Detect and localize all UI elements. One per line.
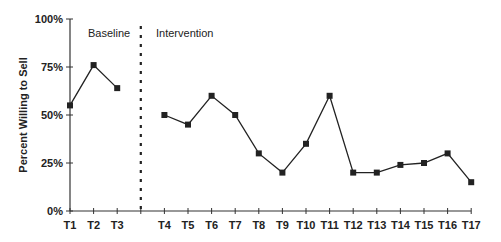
x-tick-label: T14 <box>391 219 411 231</box>
data-series <box>67 62 474 185</box>
line-chart: 0%25%50%75%100% T1T2T3T4T5T6T7T8T9T10T11… <box>0 0 501 242</box>
x-tick-label: T9 <box>276 219 289 231</box>
x-tick-label: T2 <box>87 219 100 231</box>
x-tick-label: T16 <box>438 219 457 231</box>
square-marker <box>279 170 285 176</box>
series-line <box>164 96 471 182</box>
square-marker <box>209 93 215 99</box>
square-marker <box>67 102 73 108</box>
x-tick-label: T15 <box>415 219 434 231</box>
x-tick-label: T11 <box>320 219 338 231</box>
square-marker <box>114 85 120 91</box>
axes <box>70 19 471 211</box>
square-marker <box>256 150 262 156</box>
x-tick-label: T17 <box>462 219 481 231</box>
baseline-phase-label: Baseline <box>88 27 130 39</box>
y-tick-label: 50% <box>41 109 63 121</box>
y-tick-label: 0% <box>47 205 63 217</box>
x-tick-label: T3 <box>111 219 124 231</box>
square-marker <box>350 170 356 176</box>
square-marker <box>397 162 403 168</box>
x-tick-label: T13 <box>367 219 386 231</box>
square-marker <box>445 150 451 156</box>
x-tick-label: T6 <box>205 219 218 231</box>
x-tick-label: T8 <box>252 219 265 231</box>
square-marker <box>161 112 167 118</box>
x-tick-label: T10 <box>297 219 316 231</box>
x-tick-label: T7 <box>229 219 242 231</box>
square-marker <box>374 170 380 176</box>
square-marker <box>421 160 427 166</box>
y-axis-title: Percent Willing to Sell <box>17 57 29 172</box>
x-tick-label: T12 <box>344 219 363 231</box>
x-tick-label: T1 <box>64 219 77 231</box>
square-marker <box>468 179 474 185</box>
y-tick-label: 25% <box>41 157 63 169</box>
x-tick-label: T4 <box>158 219 172 231</box>
y-tick-label: 100% <box>35 13 63 25</box>
square-marker <box>303 141 309 147</box>
square-marker <box>91 62 97 68</box>
square-marker <box>185 122 191 128</box>
square-marker <box>327 93 333 99</box>
y-axis-ticks: 0%25%50%75%100% <box>35 13 73 217</box>
x-tick-label: T5 <box>182 219 195 231</box>
y-tick-label: 75% <box>41 61 63 73</box>
series-line <box>70 65 117 105</box>
intervention-phase-label: Intervention <box>156 27 213 39</box>
square-marker <box>232 112 238 118</box>
